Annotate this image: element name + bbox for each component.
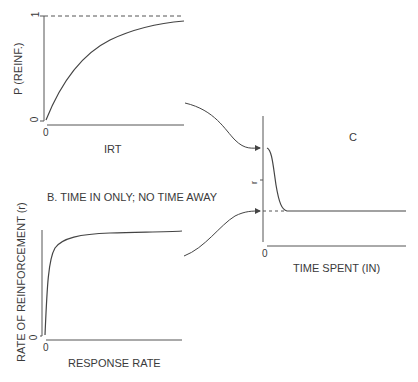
panel-c-x-label: TIME SPENT (IN) [293, 262, 380, 274]
panel-b-x-label: RESPONSE RATE [68, 357, 161, 369]
panel-c-x-tick-zero-label: 0 [262, 248, 268, 259]
panel-a-y-tick-top-label: 1 [30, 12, 41, 18]
panel-a-x-tick-zero-label: 0 [43, 127, 49, 138]
panel-c-title: C [349, 131, 357, 143]
panel-c-y-label: r [249, 181, 259, 184]
panel-a-plot [40, 16, 184, 125]
panel-a-y-tick-zero-label: 0 [29, 117, 40, 123]
arrow-b-to-c [184, 211, 260, 256]
panel-b-x-tick-zero-label: 0 [43, 342, 49, 353]
panel-a-x-label: IRT [104, 143, 122, 155]
panel-b-plot [40, 230, 182, 340]
panel-b-y-label: RATE OF REINFORCEMENT (r) [15, 202, 27, 362]
arrow-a-to-c [185, 103, 260, 148]
panel-b-title: B. TIME IN ONLY; NO TIME AWAY [47, 191, 217, 203]
panel-a-y-label: P (REINF.) [12, 43, 24, 95]
panel-b-y-tick-zero-label: 0 [28, 335, 39, 341]
panel-a-curve [46, 21, 184, 120]
panel-b-curve [45, 231, 182, 335]
panel-c-plot [260, 116, 406, 246]
panel-c-curve [267, 148, 406, 211]
